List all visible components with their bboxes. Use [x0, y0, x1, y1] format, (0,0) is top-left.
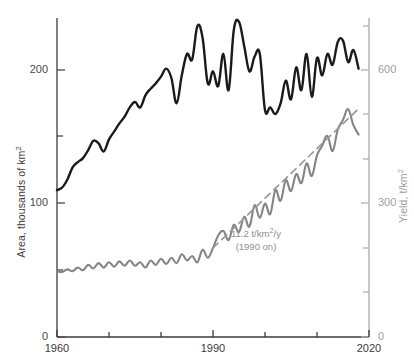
trend-annotation-value: 11.2 t/km: [231, 228, 269, 239]
series-line-area: [57, 20, 359, 190]
series-line-yield: [57, 109, 359, 272]
y-axis-right-title-text: Yield, t/km: [397, 173, 409, 223]
y-right-tick-300: 300: [378, 196, 396, 208]
right-axis-ticks: [361, 26, 369, 337]
bottom-axis-ticks: [57, 330, 369, 337]
y-axis-left-title: Area, thousands of km2: [15, 107, 27, 297]
x-tick-1960: 1960: [27, 342, 87, 354]
y-axis-right-title-superscript: 2: [396, 169, 405, 173]
trend-annotation: 11.2 t/km2/y (1990 on): [231, 228, 281, 253]
chart-plot-area: [0, 0, 414, 363]
y-right-tick-600: 600: [378, 63, 396, 75]
trend-annotation-note: (1990 on): [231, 241, 281, 254]
x-tick-1990: 1990: [183, 342, 243, 354]
chart-container: 200 100 0 600 300 0 1960 1990 2020 Area,…: [0, 0, 414, 363]
y-axis-left-title-text: Area, thousands of km: [15, 151, 27, 258]
left-axis-ticks: [57, 70, 65, 337]
trend-annotation-tail: /y: [274, 228, 281, 239]
y-left-tick-200: 200: [4, 63, 48, 75]
x-tick-2020: 2020: [339, 342, 399, 354]
y-right-tick-0: 0: [378, 330, 384, 342]
trend-annotation-slope: 11.2 t/km2/y: [231, 228, 281, 241]
axis-lines: [57, 18, 369, 337]
y-left-tick-0: 0: [4, 330, 48, 342]
y-axis-left-title-superscript: 2: [14, 146, 23, 150]
y-axis-right-title: Yield, t/km2: [397, 101, 409, 291]
